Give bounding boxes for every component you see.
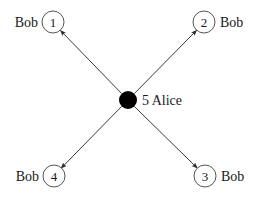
edge-arrow <box>134 30 196 93</box>
peer-node-number: 3 <box>202 169 209 184</box>
peer-node-name: Bob <box>16 169 39 184</box>
center-node-label: 5 Alice <box>142 93 182 108</box>
center-node-disc[interactable] <box>119 91 137 109</box>
edge-arrow <box>60 30 121 93</box>
edge-arrow <box>61 107 122 169</box>
peer-node-4[interactable]: 4Bob <box>16 165 65 187</box>
peer-node-number: 4 <box>51 169 58 184</box>
peer-node-name: Bob <box>221 169 244 184</box>
peer-node-number: 1 <box>50 15 57 30</box>
peer-node-name: Bob <box>220 15 243 30</box>
graph-canvas: 1Bob2Bob3Bob4Bob 5 Alice <box>0 0 263 199</box>
peer-node-3[interactable]: 3Bob <box>194 165 244 187</box>
peer-node-1[interactable]: 1Bob <box>15 11 64 33</box>
star-graph-diagram: 1Bob2Bob3Bob4Bob 5 Alice <box>0 0 263 199</box>
edge-arrow <box>134 107 197 169</box>
peer-node-number: 2 <box>201 15 208 30</box>
peer-node-name: Bob <box>15 15 38 30</box>
peer-node-2[interactable]: 2Bob <box>193 11 243 33</box>
center-node-group: 5 Alice <box>119 91 182 109</box>
